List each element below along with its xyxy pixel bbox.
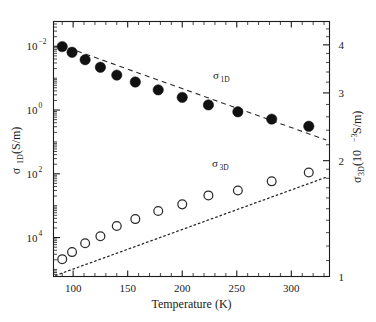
data-point-filled: [177, 92, 187, 102]
data-point-open: [267, 177, 276, 186]
data-point-open: [68, 248, 77, 257]
data-point-filled: [266, 114, 276, 124]
data-point-open: [81, 239, 90, 248]
data-point-open: [304, 168, 313, 177]
annotation-sigma-1d-sub: 1D: [221, 75, 231, 84]
x-tick-label: 200: [174, 282, 191, 294]
y-axis-left-title-rest: (S/m): [9, 127, 23, 154]
x-axis-title: Temperature (K): [151, 297, 231, 311]
annotation-sigma-3d-sub: 3D: [220, 163, 230, 172]
data-point-open: [204, 191, 213, 200]
x-tick-label: 300: [283, 282, 300, 294]
data-point-open: [96, 232, 105, 241]
y-tick-mantissa: 10: [27, 168, 39, 180]
data-point-open: [131, 215, 140, 224]
y-axis-right-title-close: S/m): [350, 111, 364, 134]
y-axis-left-title: σ1D (S/m): [9, 127, 25, 175]
y-tick-exponent: 4: [39, 229, 43, 238]
y-axis-right-title-sub: 3D: [357, 166, 366, 176]
y-axis-left-ticks: 10410210010−2: [27, 22, 61, 277]
y-tick-label-group: 102: [27, 165, 43, 180]
annotation-sigma-3d-base: σ: [212, 157, 218, 169]
y-tick-label-group: 100: [27, 101, 43, 116]
y-tick-mantissa: 10: [27, 232, 39, 244]
fit-line-dashed: [60, 45, 326, 140]
y-tick-exponent: 2: [39, 165, 43, 174]
y-axis-right-title-open: (10: [350, 150, 364, 166]
y-right-tick-label: 3: [339, 87, 345, 99]
data-point-filled: [67, 47, 77, 57]
data-layer: [56, 41, 327, 275]
y-tick-exponent: 0: [39, 101, 43, 110]
y-axis-right-title: σ3D (10−3 S/m): [350, 111, 367, 183]
x-tick-label: 150: [119, 282, 136, 294]
data-point-filled: [57, 41, 67, 51]
data-point-open: [154, 207, 163, 216]
y-axis-left-title-sub: 1D: [16, 154, 25, 164]
y-axis-left-title-text: σ: [9, 167, 23, 174]
y-tick-label-group: 10−2: [27, 37, 47, 52]
y-right-tick-label: 4: [339, 39, 345, 51]
plot-frame: [54, 22, 330, 277]
data-point-filled: [203, 100, 213, 110]
y-right-tick-label: 2: [339, 155, 345, 167]
annotation-sigma-3d: σ3D: [212, 157, 229, 172]
data-point-open: [58, 255, 67, 264]
data-point-filled: [130, 77, 140, 87]
data-point-filled: [80, 54, 90, 64]
y-axis-right-title-text: σ: [350, 176, 364, 183]
x-tick-label: 250: [229, 282, 246, 294]
annotation-sigma-1d-base: σ: [213, 69, 219, 81]
y-right-tick-label: 1: [339, 271, 345, 283]
conductivity-plot: 10015020025030010410210010−21234σ1Dσ3DTe…: [0, 0, 376, 322]
data-point-filled: [304, 121, 314, 131]
data-point-filled: [153, 85, 163, 95]
data-point-open: [178, 200, 187, 209]
figure-container: 10015020025030010410210010−21234σ1Dσ3DTe…: [0, 0, 376, 322]
data-point-filled: [95, 62, 105, 72]
series-sigma-1d: [57, 41, 314, 131]
y-axis-right-ticks: 1234: [323, 29, 345, 283]
y-tick-mantissa: 10: [27, 104, 39, 116]
y-tick-mantissa: 10: [27, 40, 39, 52]
data-point-open: [233, 186, 242, 195]
annotation-sigma-1d: σ1D: [213, 69, 230, 84]
data-point-open: [112, 222, 121, 231]
fit-line-dotted: [56, 177, 327, 275]
data-point-filled: [233, 107, 243, 117]
y-tick-label-group: 104: [27, 229, 43, 244]
x-tick-label: 100: [65, 282, 82, 294]
data-point-filled: [112, 70, 122, 80]
y-tick-exponent: −2: [39, 37, 47, 46]
series-sigma-3d: [58, 168, 313, 263]
